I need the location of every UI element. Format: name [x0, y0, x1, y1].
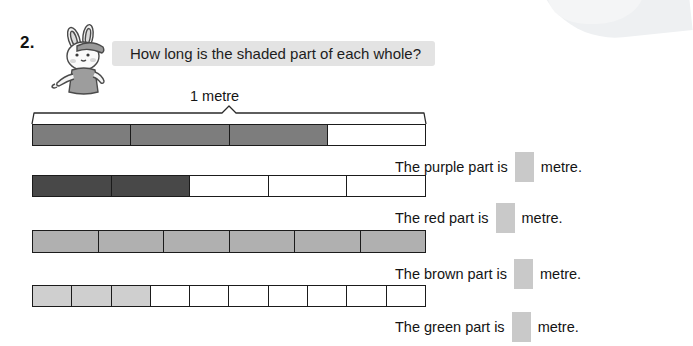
bar-cell	[99, 231, 165, 252]
bar-cell	[269, 286, 308, 306]
answer-line-green: The green part is metre.	[395, 312, 579, 342]
bar-cell	[230, 125, 328, 145]
bar-cell	[387, 286, 425, 306]
bar-cell	[230, 231, 296, 252]
bar-cell	[131, 125, 229, 145]
bar-cell	[308, 286, 347, 306]
bar-cell	[112, 176, 191, 196]
bar-cell	[190, 286, 229, 306]
answer-input-red[interactable]	[496, 203, 515, 233]
answer-prefix: The green part is	[395, 319, 505, 335]
bar-cell	[164, 231, 230, 252]
bar-cell	[269, 176, 348, 196]
bar-cell	[328, 125, 425, 145]
answer-prefix: The purple part is	[395, 159, 508, 175]
bar-cell	[33, 176, 112, 196]
question-number: 2.	[20, 33, 35, 53]
bar-cell	[295, 231, 361, 252]
bar-cell	[33, 125, 131, 145]
bar-cell	[33, 286, 72, 306]
bar-cell	[229, 286, 268, 306]
bar-cell	[347, 286, 386, 306]
bar-cell	[112, 286, 151, 306]
fraction-bar-green	[32, 285, 426, 307]
bar-cell	[361, 231, 426, 252]
scale-label: 1 metre	[190, 88, 239, 104]
answer-prefix: The red part is	[395, 210, 489, 226]
answer-prefix: The brown part is	[395, 266, 507, 282]
question-text: How long is the shaded part of each whol…	[130, 45, 421, 62]
bar-cell	[72, 286, 111, 306]
question-banner: How long is the shaded part of each whol…	[112, 41, 435, 66]
bar-cell	[33, 231, 99, 252]
answer-line-purple: The purple part is metre.	[395, 152, 582, 182]
answer-suffix: metre.	[540, 266, 581, 282]
answer-input-green[interactable]	[512, 312, 531, 342]
answer-line-red: The red part is metre.	[395, 203, 563, 233]
answer-input-brown[interactable]	[514, 259, 533, 289]
fraction-bar-purple	[32, 124, 426, 146]
bar-cell	[151, 286, 190, 306]
metre-brace-icon	[30, 105, 428, 125]
answer-line-brown: The brown part is metre.	[395, 259, 581, 289]
answer-input-purple[interactable]	[515, 152, 534, 182]
answer-suffix: metre.	[541, 159, 582, 175]
fraction-bar-brown	[32, 230, 426, 253]
answer-suffix: metre.	[522, 210, 563, 226]
bar-cell	[190, 176, 269, 196]
answer-suffix: metre.	[538, 319, 579, 335]
fraction-bar-red	[32, 175, 426, 197]
